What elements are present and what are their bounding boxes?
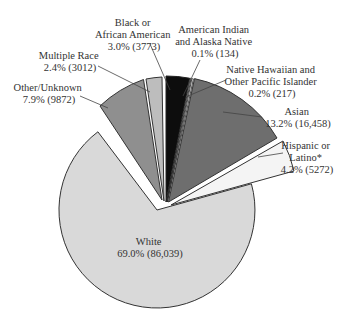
- label-other: Other/Unknown 7.9% (9872): [14, 82, 85, 106]
- label-hispanic: Hispanic or Latino* 4.2% (5272): [281, 140, 334, 176]
- label-multiple: Multiple Race 2.4% (3012): [39, 50, 101, 74]
- label-black: Black or African American 3.0% (3773): [95, 17, 173, 53]
- label-asian: Asian 13.2% (16,458): [265, 106, 331, 130]
- pie-chart: Black or African American 3.0% (3773) Am…: [0, 0, 344, 324]
- label-american-indian: American Indian and Alaska Native 0.1% (…: [175, 24, 255, 60]
- label-nhpi: Native Hawaiian and Other Pacific Island…: [225, 64, 320, 100]
